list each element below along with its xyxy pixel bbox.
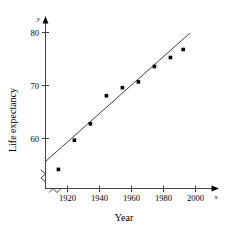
data-point bbox=[89, 122, 93, 126]
y-tick-label-70: 70 bbox=[31, 81, 40, 91]
trend-line bbox=[46, 33, 190, 161]
x-axis-variable-label: x bbox=[213, 193, 218, 201]
axis-break-marker bbox=[41, 170, 61, 193]
data-point bbox=[181, 48, 185, 52]
x-tick-label-1980: 1980 bbox=[155, 193, 172, 203]
y-tick-label-80: 80 bbox=[31, 28, 40, 38]
data-point bbox=[105, 94, 109, 98]
data-point bbox=[121, 86, 125, 90]
data-point bbox=[73, 138, 77, 142]
data-points bbox=[57, 48, 185, 172]
data-point bbox=[137, 80, 141, 84]
y-axis-variable-label: y bbox=[36, 15, 41, 23]
y-axis-title: Life expectancy bbox=[7, 88, 18, 152]
data-point bbox=[57, 168, 61, 172]
data-point bbox=[169, 56, 173, 60]
x-axis bbox=[46, 186, 220, 192]
x-tick-label-1940: 1940 bbox=[91, 193, 108, 203]
x-axis-title: Year bbox=[115, 212, 134, 223]
x-tick-label-2000: 2000 bbox=[187, 193, 204, 203]
y-tick-label-60: 60 bbox=[31, 134, 40, 144]
scatter-plot-figure: 80 70 60 1920 1940 1960 1980 2000 y x Li… bbox=[0, 0, 227, 229]
data-point bbox=[153, 65, 157, 69]
y-axis bbox=[43, 16, 49, 189]
chart-canvas: 80 70 60 1920 1940 1960 1980 2000 y x Li… bbox=[0, 0, 227, 229]
x-tick-label-1960: 1960 bbox=[123, 193, 140, 203]
x-tick-label-1920: 1920 bbox=[59, 193, 76, 203]
